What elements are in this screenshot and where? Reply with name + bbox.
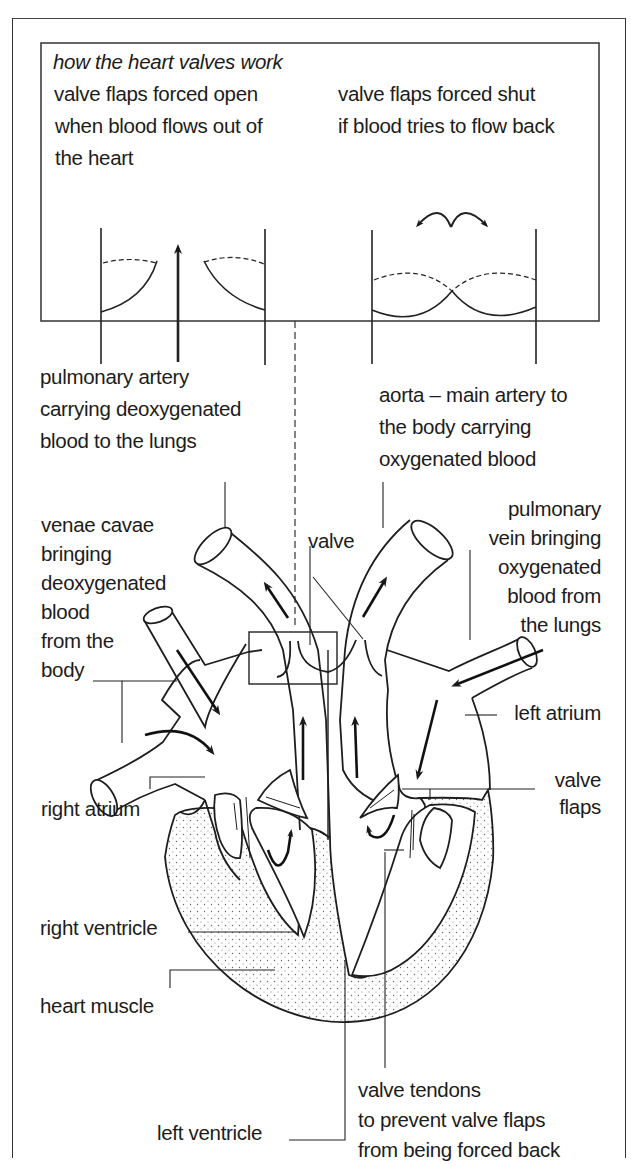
label-left-ventricle: left ventricle — [157, 1118, 262, 1148]
open-valve-illustration — [101, 228, 265, 365]
aorta — [340, 520, 410, 808]
aorta-opening — [405, 514, 458, 565]
label-valve-tendons-3: from being forced back — [358, 1135, 560, 1165]
label-valve-flaps-1: valve — [555, 765, 601, 795]
inset-title: how the heart valves work — [53, 47, 283, 77]
open-caption-line-1: valve flaps forced open — [54, 79, 258, 109]
label-pulmonary-vein-5: the lungs — [520, 610, 601, 640]
label-venae-cavae-5: from the — [41, 626, 114, 656]
open-caption-line-3: the heart — [55, 143, 133, 173]
label-pulmonary-vein-4: blood from — [507, 581, 601, 611]
label-pulmonary-vein-3: oxygenated — [498, 552, 601, 582]
shut-caption-line-1: valve flaps forced shut — [338, 79, 535, 109]
label-valve-tendons-2: to prevent valve flaps — [358, 1105, 545, 1135]
superior-vena-cava — [144, 620, 246, 727]
superior-vena-cava-opening — [142, 603, 175, 626]
label-valve-flaps-2: flaps — [559, 792, 601, 822]
label-venae-cavae-2: bringing — [41, 539, 112, 569]
label-heart-muscle: heart muscle — [40, 991, 154, 1021]
label-aorta-3: oxygenated blood — [379, 444, 536, 474]
shut-caption-line-2: if blood tries to flow back — [338, 111, 554, 141]
label-pulmonary-artery-3: blood to the lungs — [40, 426, 196, 456]
label-valve-tendons-1: valve tendons — [358, 1075, 481, 1105]
open-caption-line-2: when blood flows out of — [55, 111, 262, 141]
label-aorta-1: aorta – main artery to — [379, 380, 567, 410]
label-pulmonary-artery-1: pulmonary artery — [40, 362, 189, 392]
label-valve: valve — [308, 526, 354, 556]
label-pulmonary-vein-2: vein bringing — [489, 523, 601, 553]
label-venae-cavae-1: venae cavae — [41, 510, 154, 540]
label-aorta-2: the body carrying — [379, 412, 531, 442]
label-right-atrium: right atrium — [41, 794, 140, 824]
label-venae-cavae-3: deoxygenated — [41, 568, 166, 598]
valve-highlight-box — [249, 632, 337, 684]
label-pulmonary-vein-1: pulmonary — [508, 494, 601, 524]
label-pulmonary-artery-2: carrying deoxygenated — [40, 394, 241, 424]
label-venae-cavae-4: blood — [41, 597, 90, 627]
label-venae-cavae-6: body — [41, 655, 84, 685]
shut-valve-illustration — [372, 213, 536, 364]
label-right-ventricle: right ventricle — [40, 913, 157, 943]
label-left-atrium: left atrium — [514, 698, 601, 728]
pulmonary-artery-opening — [189, 522, 237, 570]
